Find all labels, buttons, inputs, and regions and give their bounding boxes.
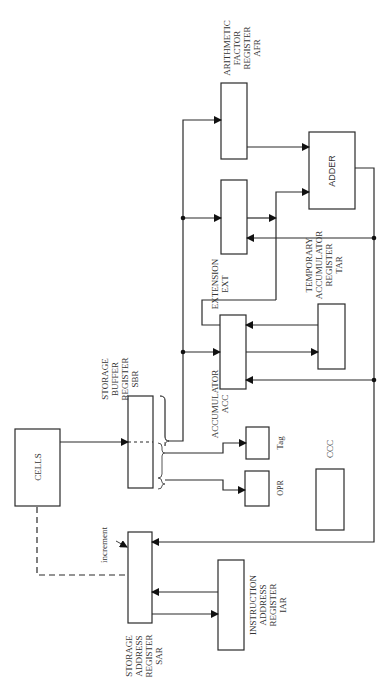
svg-text:EXT: EXT bbox=[220, 275, 230, 293]
svg-text:FACTOR: FACTOR bbox=[232, 31, 242, 66]
tar-label: TEMPORARY ACCUMULATOR REGISTER TAR bbox=[304, 231, 344, 299]
svg-text:SAR: SAR bbox=[154, 647, 164, 665]
svg-text:increment: increment bbox=[99, 527, 109, 563]
wire-sbr-to-tag bbox=[165, 443, 246, 453]
svg-text:ACC: ACC bbox=[220, 395, 230, 414]
svg-text:REGISTER: REGISTER bbox=[324, 243, 334, 286]
svg-text:BUFFER: BUFFER bbox=[110, 362, 120, 396]
ext-label: EXTENSION EXT bbox=[210, 258, 230, 309]
wire-sar-to-cells-dashed bbox=[37, 507, 128, 575]
sar-label: STORAGE ADDRESS REGISTER SAR bbox=[124, 634, 164, 677]
svg-text:ARITHMETIC: ARITHMETIC bbox=[222, 20, 232, 76]
svg-text:Tag: Tag bbox=[275, 436, 285, 450]
sbr-brace-mid bbox=[158, 443, 165, 478]
sar-box bbox=[128, 532, 152, 623]
afr-box bbox=[221, 83, 247, 159]
svg-text:OPR: OPR bbox=[276, 480, 285, 496]
adder-label: ADDER bbox=[327, 155, 337, 187]
acc-box bbox=[220, 315, 246, 389]
tag-box bbox=[246, 427, 269, 459]
junction-dot bbox=[372, 236, 377, 241]
iar-box bbox=[218, 560, 244, 650]
svg-text:ADDER: ADDER bbox=[327, 155, 337, 187]
opr-box bbox=[245, 471, 269, 506]
tag-label: Tag bbox=[275, 436, 285, 450]
register-block-diagram: ARITHMETIC FACTOR REGISTER AFR ADDER EXT… bbox=[0, 0, 388, 689]
svg-text:STORAGE: STORAGE bbox=[124, 635, 134, 677]
svg-text:AFR: AFR bbox=[252, 39, 262, 57]
opr-label: OPR bbox=[276, 480, 285, 496]
junction-dot bbox=[181, 350, 186, 355]
sbr-brace-upper-b bbox=[160, 396, 168, 441]
iar-label: INSTRUCTION ADDRESS REGISTER IAR bbox=[248, 575, 288, 635]
ccc-label: CCC bbox=[325, 440, 335, 458]
svg-text:REGISTER: REGISTER bbox=[242, 26, 252, 69]
sbr-label: STORAGE BUFFER REGISTER SBR bbox=[100, 357, 140, 400]
junction-dot bbox=[372, 378, 377, 383]
svg-text:CELLS: CELLS bbox=[33, 453, 43, 481]
svg-text:ADDRESS: ADDRESS bbox=[258, 584, 268, 625]
svg-text:TAR: TAR bbox=[334, 256, 344, 273]
svg-text:TEMPORARY: TEMPORARY bbox=[304, 237, 314, 293]
svg-text:SBR: SBR bbox=[130, 370, 140, 387]
sbr-brace-low bbox=[158, 478, 165, 489]
ccc-box bbox=[316, 469, 344, 530]
svg-text:ACCUMULATOR: ACCUMULATOR bbox=[314, 231, 324, 299]
junction-dot bbox=[181, 216, 186, 221]
cells-label: CELLS bbox=[33, 453, 43, 481]
increment-pointer bbox=[116, 541, 127, 547]
svg-text:CCC: CCC bbox=[325, 440, 335, 458]
svg-text:INSTRUCTION: INSTRUCTION bbox=[248, 575, 258, 635]
svg-text:REGISTER: REGISTER bbox=[144, 634, 154, 677]
svg-text:REGISTER: REGISTER bbox=[268, 583, 278, 626]
svg-text:ADDRESS: ADDRESS bbox=[134, 635, 144, 676]
increment-label: increment bbox=[99, 527, 109, 563]
afr-label: ARITHMETIC FACTOR REGISTER AFR bbox=[222, 20, 262, 76]
svg-text:EXTENSION: EXTENSION bbox=[210, 258, 220, 309]
wire-sbr-to-opr bbox=[165, 480, 245, 490]
svg-text:REGISTER: REGISTER bbox=[120, 357, 130, 400]
svg-text:ACCUMULATOR: ACCUMULATOR bbox=[210, 370, 220, 438]
svg-text:IAR: IAR bbox=[278, 597, 288, 613]
wire-adder-output-bus bbox=[152, 168, 374, 542]
ext-box bbox=[221, 180, 247, 254]
svg-text:STORAGE: STORAGE bbox=[100, 358, 110, 400]
tar-box bbox=[318, 304, 345, 369]
